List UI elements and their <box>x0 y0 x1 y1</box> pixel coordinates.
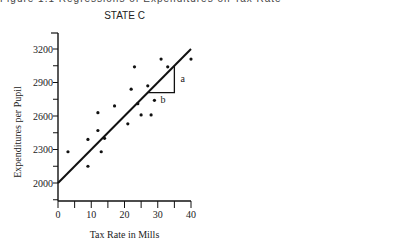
y-tick-label: 2600 <box>33 111 53 122</box>
x-tick-label: 10 <box>86 209 96 220</box>
slope-run-label: b <box>161 94 166 105</box>
data-point <box>66 150 69 153</box>
y-tick-label: 2000 <box>33 178 53 189</box>
data-point <box>96 129 99 132</box>
chart-state-c: STATE C20002300260029003200010203040Tax … <box>0 0 210 248</box>
y-tick-label: 2300 <box>33 144 53 155</box>
data-point <box>100 150 103 153</box>
data-point <box>96 111 99 114</box>
data-point <box>86 165 89 168</box>
data-point <box>166 65 169 68</box>
y-tick-label: 2900 <box>33 77 53 88</box>
x-tick-label: 30 <box>153 209 163 220</box>
data-point <box>103 137 106 140</box>
data-point <box>150 113 153 116</box>
x-tick-label: 20 <box>120 209 130 220</box>
y-tick-label: 3200 <box>33 44 53 55</box>
data-point <box>136 102 139 105</box>
data-point <box>140 113 143 116</box>
x-tick-label: 40 <box>186 209 196 220</box>
data-point <box>133 65 136 68</box>
chart-state-d: STATE D20002300260029003200010203040Tax … <box>210 0 420 248</box>
data-point <box>126 122 129 125</box>
data-point <box>159 57 162 60</box>
regression-line <box>58 49 191 183</box>
data-point <box>153 99 156 102</box>
data-point <box>189 57 192 60</box>
x-axis-label: Tax Rate in Mills <box>90 229 160 240</box>
y-axis-label: Expenditures per Pupil <box>12 86 23 178</box>
x-tick-label: 0 <box>56 209 61 220</box>
data-point <box>86 138 89 141</box>
data-point <box>130 88 133 91</box>
data-point <box>113 104 116 107</box>
slope-rise-label: a <box>180 73 185 84</box>
data-point <box>146 84 149 87</box>
chart-title: STATE C <box>104 10 145 21</box>
